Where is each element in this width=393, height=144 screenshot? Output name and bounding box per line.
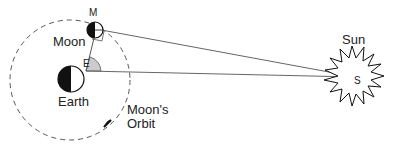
earth-point-label: E xyxy=(83,58,90,69)
sun-label: Sun xyxy=(342,33,365,47)
orbit-label-line1: Moon's xyxy=(127,103,169,117)
earth-label: Earth xyxy=(58,95,89,109)
diagram-canvas xyxy=(0,0,393,144)
moon xyxy=(87,22,103,38)
line-earth-sun xyxy=(86,71,356,77)
line-moon-sun xyxy=(96,29,356,77)
sun-point-label: S xyxy=(354,75,361,86)
earth xyxy=(58,66,84,92)
orbit-label-line2: Orbit xyxy=(127,117,155,131)
moon-point-label: M xyxy=(89,7,97,18)
moon-label: Moon xyxy=(53,35,86,49)
orbit-arrow-icon xyxy=(104,120,111,127)
